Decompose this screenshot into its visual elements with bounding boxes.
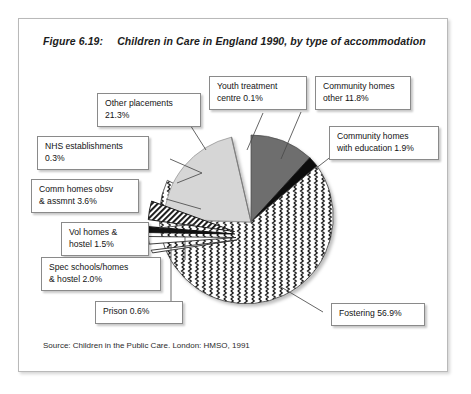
callout-community-homes-with-education[interactable]: Community homes with education 1.9% <box>329 126 439 160</box>
figure-source: Source: Children in the Public Care. Lon… <box>43 341 250 350</box>
callout-spec-schools[interactable]: Spec schools/homes & hostel 2.0% <box>41 257 161 291</box>
callout-vol-homes-hostel[interactable]: Vol homes & hostel 1.5% <box>61 222 149 256</box>
leader-fostering <box>281 287 323 312</box>
pie-chart: Other placements 21.3% NHS establishment… <box>19 19 449 373</box>
callout-prison[interactable]: Prison 0.6% <box>95 301 183 324</box>
callout-nhs-establishments[interactable]: NHS establishments 0.3% <box>37 136 149 170</box>
callout-community-homes-other[interactable]: Community homes other 11.8% <box>315 76 411 110</box>
callout-comm-homes-obsv[interactable]: Comm homes obsv & assmnt 3.6% <box>31 179 139 213</box>
slice-other-placements[interactable] <box>164 137 251 222</box>
callout-other-placements[interactable]: Other placements 21.3% <box>97 93 201 127</box>
figure-panel: Figure 6.19:Children in Care in England … <box>18 18 448 372</box>
callout-youth-treatment-centre[interactable]: Youth treatment centre 0.1% <box>209 76 307 110</box>
callout-fostering[interactable]: Fostering 56.9% <box>331 303 425 326</box>
